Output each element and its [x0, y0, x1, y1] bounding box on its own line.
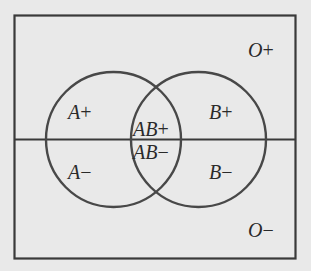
venn-diagram-canvas: O+ A+ AB+ B+ A− AB− B− O− [0, 0, 311, 271]
region-sign: + [80, 101, 91, 123]
region-letter: B [209, 161, 221, 183]
region-sign: + [221, 101, 232, 123]
region-letter: AB [133, 141, 157, 163]
region-letter: AB [133, 118, 157, 140]
region-label-a-negative: A− [68, 162, 92, 182]
region-letter: A [68, 161, 80, 183]
region-letter: B [209, 101, 221, 123]
region-label-b-positive: B+ [209, 102, 233, 122]
region-label-a-positive: A+ [68, 102, 92, 122]
region-label-ab-positive: AB+ [133, 119, 169, 139]
region-letter: O [248, 39, 262, 61]
region-sign: + [157, 118, 168, 140]
region-label-o-positive: O+ [248, 40, 274, 60]
region-sign: + [262, 39, 273, 61]
region-label-o-negative: O− [248, 220, 274, 240]
region-letter: O [248, 219, 262, 241]
region-label-b-negative: B− [209, 162, 233, 182]
region-sign: − [157, 141, 168, 163]
region-sign: − [262, 219, 273, 241]
region-label-ab-negative: AB− [133, 142, 169, 162]
region-sign: − [221, 161, 232, 183]
region-sign: − [80, 161, 91, 183]
region-letter: A [68, 101, 80, 123]
